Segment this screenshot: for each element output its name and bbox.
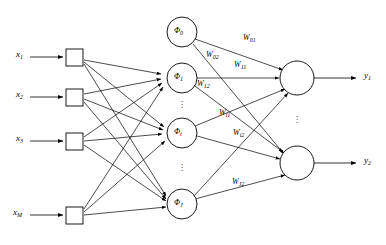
- hidden-label-phi0: Φ0: [174, 26, 183, 36]
- hidden-label-phii: Φi: [174, 127, 182, 137]
- input-node-x3: [66, 133, 83, 150]
- input-label-x3: x3: [16, 133, 23, 144]
- input-label-x1: x1: [16, 49, 23, 60]
- edge-x2-phii: [84, 99, 163, 130]
- edge-x3-phi1: [84, 83, 162, 137]
- edge-x1-phii: [84, 62, 164, 127]
- output-node-2: [280, 146, 314, 180]
- input-arrows: [30, 57, 63, 215]
- weight-label-w11: W11: [234, 60, 246, 70]
- input-node-x1: [66, 49, 83, 66]
- hidden-node-phii: [167, 118, 197, 148]
- edge-xM-phii: [84, 141, 165, 212]
- edge-phi1-o2: [195, 86, 283, 152]
- hidden-ellipsis-2: ...: [178, 161, 186, 170]
- hidden-ellipsis-1: ...: [178, 98, 186, 107]
- hidden-label-phi1: Φ1: [174, 72, 183, 82]
- output-label-y2: y2: [364, 155, 371, 166]
- edge-x1-phi1: [84, 60, 161, 74]
- output-ellipsis: ...: [293, 113, 301, 122]
- input-to-hidden-edges: [84, 60, 166, 215]
- weight-label-w01: W01: [243, 33, 256, 43]
- weight-label-w12: W12: [197, 79, 210, 89]
- network-graphics: [0, 0, 386, 245]
- network-diagram: x1 x2 x3 xM Φ0 Φ1 Φi ΦJ ... ... ... W01 …: [0, 0, 386, 245]
- weight-label-wJ2: WJ2: [232, 177, 244, 187]
- input-node-xM: [66, 207, 83, 224]
- output-node-1: [280, 61, 314, 95]
- output-arrows: [314, 78, 356, 163]
- weight-label-wi2: Wi2: [233, 128, 244, 138]
- edge-x3-phii: [84, 134, 162, 141]
- edge-xM-phiJ: [84, 207, 166, 215]
- weight-label-wi1: Wi1: [219, 108, 230, 118]
- output-label-y1: y1: [364, 70, 371, 81]
- edge-phii-o1: [195, 89, 285, 126]
- edge-x3-phiJ: [84, 145, 166, 201]
- input-node-x2: [66, 89, 83, 106]
- input-label-xM: xM: [13, 207, 22, 218]
- input-squares: [66, 49, 83, 224]
- hidden-nodes: [167, 17, 197, 219]
- hidden-label-phiJ: ΦJ: [174, 198, 183, 208]
- input-label-x2: x2: [16, 89, 23, 100]
- weight-label-w02: W02: [206, 50, 219, 60]
